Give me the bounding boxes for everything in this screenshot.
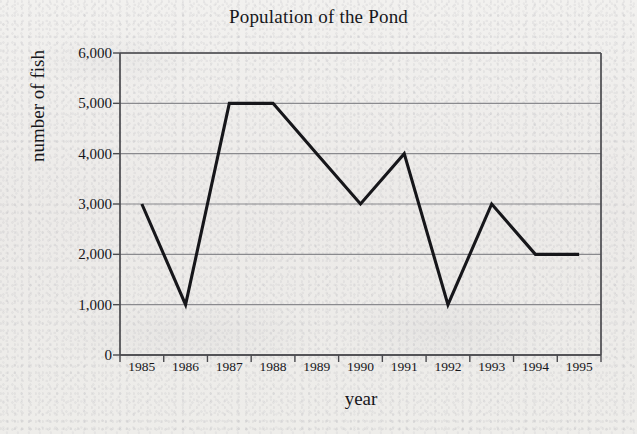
x-axis-tick-marks bbox=[120, 355, 601, 362]
y-axis-tick-marks bbox=[113, 53, 120, 355]
line-chart: Population of the Pond number of fish ye… bbox=[0, 0, 637, 434]
plot-area bbox=[0, 0, 637, 434]
